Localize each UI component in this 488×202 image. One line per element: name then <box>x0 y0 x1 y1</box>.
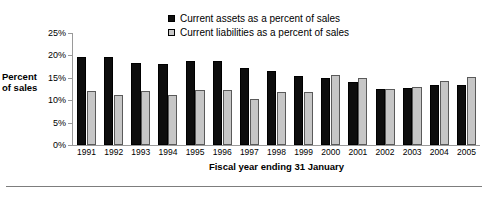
bar-current-assets <box>348 82 357 145</box>
y-axis-tick-mark <box>68 100 72 101</box>
bar-current-liabilities <box>412 87 421 145</box>
bar-group <box>267 33 286 145</box>
bar-current-liabilities <box>87 91 96 145</box>
bar-current-assets <box>321 78 330 145</box>
bar-current-assets <box>376 89 385 145</box>
bar-group <box>158 33 177 145</box>
bar-current-liabilities <box>358 78 367 145</box>
bar-current-assets <box>457 85 466 145</box>
y-axis-tick-label: 25% <box>48 29 66 38</box>
bar-current-assets <box>267 71 276 145</box>
y-axis-tick-mark <box>68 78 72 79</box>
bar-group <box>131 33 150 145</box>
y-axis-tick-mark <box>68 33 72 34</box>
bar-current-assets <box>294 76 303 145</box>
bar-chart: Current assets as a percent of sales Cur… <box>0 0 488 202</box>
y-axis-tick-mark <box>68 145 72 146</box>
x-axis-tick-label: 2002 <box>371 147 398 157</box>
bar-current-liabilities <box>223 90 232 145</box>
x-axis-tick-label: 1992 <box>100 147 127 157</box>
bar-current-assets <box>213 61 222 145</box>
bar-current-assets <box>430 85 439 145</box>
bar-current-liabilities <box>114 95 123 145</box>
bar-current-liabilities <box>385 89 394 145</box>
bar-current-assets <box>77 57 86 145</box>
bar-current-liabilities <box>440 81 449 146</box>
x-axis-tick-labels: 1991199219931994199519961997199819992000… <box>73 147 480 159</box>
y-axis-tick-label: 0% <box>53 141 66 150</box>
x-axis-tick-label: 1994 <box>154 147 181 157</box>
bar-current-assets <box>403 88 412 145</box>
bar-current-assets <box>131 63 140 145</box>
x-axis-tick-label: 2004 <box>426 147 453 157</box>
bar-current-assets <box>186 61 195 145</box>
y-axis-tick-labels: 0%5%10%15%20%25% <box>38 28 66 150</box>
y-axis-tick-mark <box>68 123 72 124</box>
bar-group <box>186 33 205 145</box>
bar-current-liabilities <box>331 75 340 145</box>
bar-current-assets <box>240 68 249 145</box>
bar-group <box>430 33 449 145</box>
bar-group <box>294 33 313 145</box>
legend-swatch-icon-current-assets <box>168 15 175 22</box>
x-axis-line <box>72 145 480 146</box>
bar-current-liabilities <box>168 95 177 145</box>
x-axis-tick-label: 1996 <box>209 147 236 157</box>
footer-note <box>8 191 478 201</box>
x-axis-title: Fiscal year ending 31 January <box>73 161 480 172</box>
bar-group <box>376 33 395 145</box>
bar-current-assets <box>158 64 167 145</box>
bar-group <box>104 33 123 145</box>
plot-area <box>73 33 480 145</box>
legend-item-current-assets: Current assets as a percent of sales <box>168 12 428 25</box>
x-axis-tick-label: 1993 <box>127 147 154 157</box>
y-axis-tick-label: 10% <box>48 96 66 105</box>
bar-group <box>240 33 259 145</box>
x-axis-tick-label: 2000 <box>317 147 344 157</box>
y-axis-tick-label: 20% <box>48 51 66 60</box>
bar-current-liabilities <box>195 90 204 145</box>
x-axis-tick-label: 2001 <box>344 147 371 157</box>
bar-group <box>403 33 422 145</box>
x-axis-tick-label: 1991 <box>73 147 100 157</box>
x-axis-tick-label: 1997 <box>236 147 263 157</box>
x-axis-tick-label: 2005 <box>453 147 480 157</box>
bar-current-liabilities <box>467 77 476 145</box>
bar-current-liabilities <box>277 92 286 145</box>
bar-current-liabilities <box>250 99 259 145</box>
y-axis-tick-mark <box>68 55 72 56</box>
x-axis-tick-label: 1995 <box>182 147 209 157</box>
bar-current-liabilities <box>141 91 150 145</box>
y-axis-tick-label: 5% <box>53 118 66 127</box>
bar-group <box>457 33 476 145</box>
bar-group <box>77 33 96 145</box>
legend-label-current-assets: Current assets as a percent of sales <box>180 13 340 24</box>
x-axis-tick-label: 2003 <box>399 147 426 157</box>
bar-current-liabilities <box>304 92 313 145</box>
bar-group <box>348 33 367 145</box>
x-axis-tick-label: 1999 <box>290 147 317 157</box>
bar-group <box>213 33 232 145</box>
y-axis-tick-label: 15% <box>48 73 66 82</box>
bar-current-assets <box>104 57 113 145</box>
bar-group <box>321 33 340 145</box>
footer-divider <box>6 186 482 187</box>
x-axis-tick-label: 1998 <box>263 147 290 157</box>
